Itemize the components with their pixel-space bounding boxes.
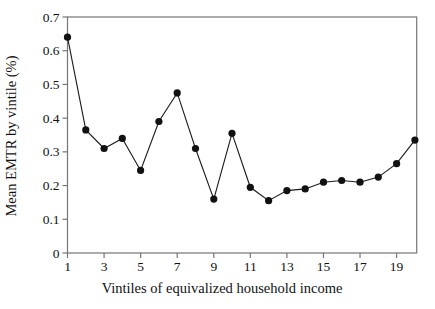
x-tick-label: 7 <box>174 259 181 274</box>
data-point <box>338 177 345 184</box>
x-tick-label: 13 <box>280 259 294 274</box>
data-point <box>155 118 162 125</box>
data-point <box>64 34 71 41</box>
data-point <box>265 197 272 204</box>
y-tick-label: 0 <box>53 246 60 261</box>
data-point <box>228 130 235 137</box>
data-point <box>320 179 327 186</box>
plot-frame <box>68 17 417 253</box>
y-axis-title: Mean EMTR by vintile (%) <box>3 55 20 216</box>
x-tick-label: 19 <box>390 259 404 274</box>
data-point <box>247 184 254 191</box>
x-tick-label: 3 <box>101 259 108 274</box>
x-tick-label: 15 <box>317 259 331 274</box>
data-point <box>393 160 400 167</box>
data-point <box>375 174 382 181</box>
x-tick-label: 5 <box>137 259 144 274</box>
data-point <box>137 167 144 174</box>
y-tick-label: 0.1 <box>43 212 60 227</box>
data-point <box>356 179 363 186</box>
y-tick-label: 0.5 <box>43 77 60 92</box>
data-point <box>174 89 181 96</box>
x-axis-title: Vintiles of equivalized household income <box>102 280 343 297</box>
data-line <box>68 37 415 201</box>
data-point <box>283 187 290 194</box>
y-tick-label: 0.7 <box>43 10 60 25</box>
chart-plot-area: 00.10.20.30.40.50.60.7135791113151719 <box>0 0 435 309</box>
x-tick-label: 9 <box>210 259 217 274</box>
data-point <box>192 145 199 152</box>
x-tick-label: 17 <box>353 259 367 274</box>
x-tick-label: 11 <box>244 259 257 274</box>
y-tick-label: 0.6 <box>43 43 60 58</box>
data-point <box>411 137 418 144</box>
y-tick-label: 0.2 <box>43 178 60 193</box>
emtr-vintile-line-chart: 00.10.20.30.40.50.60.7135791113151719 Me… <box>0 0 435 309</box>
data-point <box>101 145 108 152</box>
data-point <box>82 126 89 133</box>
data-point <box>302 185 309 192</box>
y-tick-label: 0.3 <box>43 144 60 159</box>
y-tick-label: 0.4 <box>43 111 60 126</box>
x-tick-label: 1 <box>64 259 71 274</box>
data-point <box>119 135 126 142</box>
data-point <box>210 196 217 203</box>
